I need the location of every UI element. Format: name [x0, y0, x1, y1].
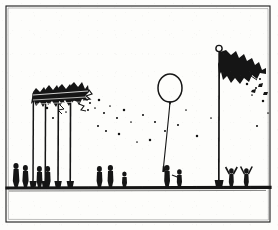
confetti-speck [154, 121, 156, 123]
figure-mid-2 [108, 165, 114, 188]
confetti-speck [246, 83, 249, 86]
figure-left-1 [13, 163, 20, 188]
figure-left-2 [22, 165, 28, 188]
confetti-speck [65, 111, 67, 113]
confetti-speck [164, 130, 166, 132]
confetti-speck [105, 130, 107, 132]
confetti-speck [89, 102, 91, 104]
confetti-speck [259, 78, 261, 80]
confetti-speck [130, 121, 132, 123]
confetti-speck [210, 117, 212, 119]
figure-mid-1 [97, 166, 103, 188]
confetti-speck [116, 117, 118, 119]
confetti-speck [103, 112, 105, 114]
confetti-speck [52, 117, 54, 119]
confetti-speck [185, 109, 187, 111]
confetti-speck [142, 114, 144, 116]
confetti-speck [123, 109, 126, 112]
confetti-speck [136, 141, 138, 143]
confetti-speck [255, 87, 257, 89]
confetti-speck [149, 139, 152, 142]
confetti-speck [256, 125, 258, 127]
confetti-speck [98, 99, 101, 102]
confetti-speck [177, 124, 179, 126]
figure-left-4 [45, 166, 51, 188]
confetti-speck [94, 107, 96, 109]
ink-drawing-svg [0, 0, 278, 230]
confetti-speck [267, 112, 269, 114]
confetti-speck [251, 94, 253, 96]
confetti-speck [196, 135, 199, 138]
confetti-speck [109, 105, 111, 107]
figure-left-3 [37, 166, 43, 188]
confetti-speck [262, 100, 265, 103]
paper-background [0, 0, 278, 230]
confetti-speck [118, 133, 121, 136]
artwork-canvas: Flags and Balloon pen and ink line drawi… [0, 0, 278, 230]
figure-mid-3 [122, 171, 127, 188]
confetti-speck [87, 109, 89, 111]
confetti-speck [97, 125, 99, 127]
